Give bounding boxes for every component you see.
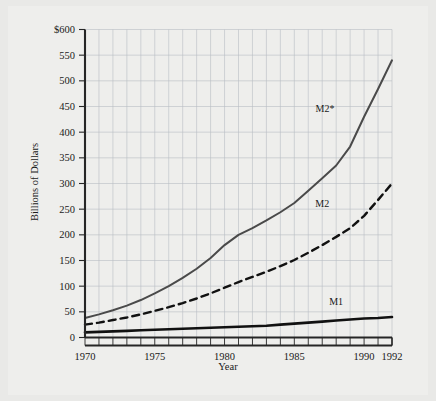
y-tick-label: 200 [59, 229, 75, 240]
y-tick-label: 100 [59, 281, 75, 292]
y-axis-tick-labels: $600550500450400350300250200150100500 [54, 24, 75, 343]
x-axis-title: Year [218, 361, 238, 372]
tick-marks [79, 30, 392, 346]
y-tick-label: $600 [54, 24, 75, 35]
y-tick-label: 0 [70, 332, 75, 343]
series-label-M2: M2 [315, 198, 329, 209]
y-tick-label: 400 [59, 127, 75, 138]
x-tick-label: 1985 [284, 351, 305, 362]
y-tick-label: 150 [59, 255, 75, 266]
x-tick-label: 1980 [214, 351, 235, 362]
y-tick-label: 50 [65, 306, 76, 317]
series-label-M1: M1 [329, 296, 343, 307]
x-tick-label: 1990 [354, 351, 375, 362]
series-annotations: M2*M2M1 [315, 103, 343, 308]
y-tick-label: 500 [59, 75, 75, 86]
y-tick-label: 250 [59, 204, 75, 215]
y-tick-label: 450 [59, 101, 75, 112]
x-axis-tick-labels: 197019751980198519901992 [75, 351, 403, 362]
y-tick-label: 300 [59, 178, 75, 189]
line-chart: $600550500450400350300250200150100500 19… [0, 0, 436, 401]
gridlines [85, 30, 392, 338]
y-tick-label: 350 [59, 152, 75, 163]
x-tick-label: 1970 [75, 351, 96, 362]
series-label-M2star: M2* [316, 103, 335, 114]
x-tick-label: 1992 [382, 351, 403, 362]
figure-container: $600550500450400350300250200150100500 19… [0, 0, 436, 401]
y-axis-title: Billions of Dollars [29, 143, 40, 221]
x-tick-label: 1975 [144, 351, 165, 362]
y-tick-label: 550 [59, 50, 75, 61]
